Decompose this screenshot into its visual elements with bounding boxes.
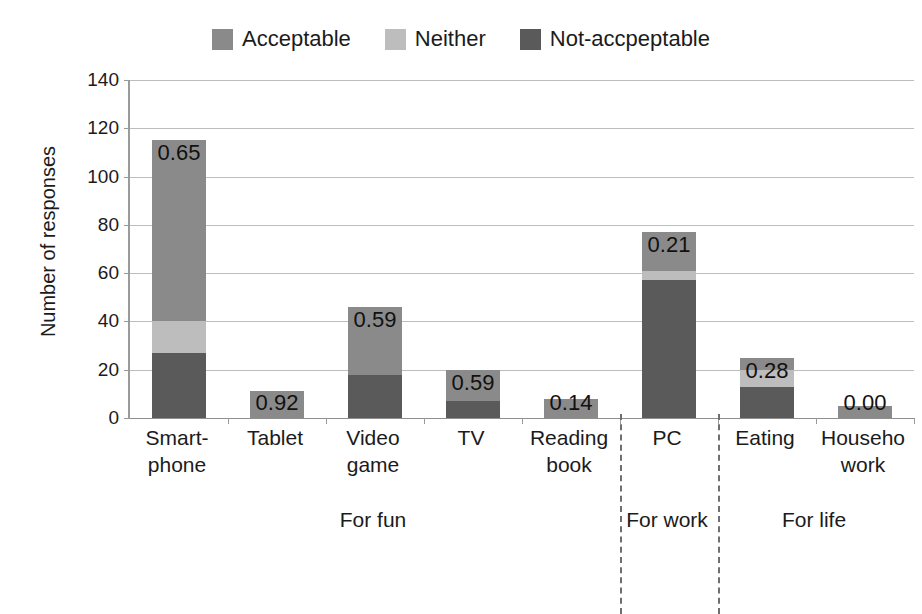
legend-item-acceptable: Acceptable: [212, 28, 351, 50]
y-tick-label: 80: [98, 214, 119, 236]
group-labels: For funFor workFor life: [128, 508, 912, 542]
bar-stack[interactable]: [152, 140, 206, 418]
y-tick-label: 40: [98, 310, 119, 332]
x-category-label: TV: [422, 424, 520, 451]
x-category-label: Videogame: [324, 424, 422, 478]
x-category-label-line: Video: [324, 424, 422, 451]
bar-value-label: 0.65: [158, 140, 201, 166]
y-tick-mark: [124, 418, 130, 419]
y-tick-label: 60: [98, 262, 119, 284]
bar-stack[interactable]: [642, 232, 696, 418]
x-category-label: Househowork: [814, 424, 912, 478]
x-category-label: Tablet: [226, 424, 324, 451]
bar-group[interactable]: 0.59: [424, 80, 522, 418]
bar-value-label: 0.14: [550, 390, 593, 416]
y-tick-label: 140: [87, 69, 119, 91]
bar-group[interactable]: 0.14: [522, 80, 620, 418]
y-axis-title: Number of responses: [37, 112, 60, 372]
bar-value-label: 0.21: [648, 232, 691, 258]
bar-group[interactable]: 0.00: [816, 80, 914, 418]
x-category-label: Readingbook: [520, 424, 618, 478]
bar-segment[interactable]: [152, 321, 206, 352]
legend-label-neither: Neither: [415, 28, 486, 50]
x-category-label-line: Eating: [716, 424, 814, 451]
x-category-label-line: game: [324, 451, 422, 478]
bar-segment[interactable]: [446, 401, 500, 418]
x-category-label-line: Tablet: [226, 424, 324, 451]
plot-area: 020406080100120140 0.650.920.590.590.140…: [128, 80, 912, 418]
legend-swatch-not-acceptable: [520, 29, 541, 50]
bar-group[interactable]: 0.21: [620, 80, 718, 418]
x-category-label-line: Househo: [814, 424, 912, 451]
x-tick-mark: [914, 418, 915, 424]
bar-segment[interactable]: [642, 271, 696, 281]
x-category-label-line: Reading: [520, 424, 618, 451]
bar-value-label: 0.59: [452, 370, 495, 396]
x-category-label: Eating: [716, 424, 814, 451]
y-tick-label: 100: [87, 166, 119, 188]
legend-swatch-neither: [385, 29, 406, 50]
bar-group[interactable]: 0.65: [130, 80, 228, 418]
group-label: For fun: [128, 508, 618, 532]
x-axis-category-labels: Smart-phoneTabletVideogameTVReadingbookP…: [128, 424, 912, 494]
bar-value-label: 0.92: [256, 390, 299, 416]
legend-swatch-acceptable: [212, 29, 233, 50]
bar-segment[interactable]: [152, 353, 206, 418]
legend-label-not-acceptable: Not-accpeptable: [550, 28, 710, 50]
group-label: For work: [618, 508, 716, 532]
bar-value-label: 0.00: [844, 390, 887, 416]
y-tick-label: 0: [108, 407, 119, 429]
bar-segment[interactable]: [740, 387, 794, 418]
bar-value-label: 0.59: [354, 307, 397, 333]
bar-group[interactable]: 0.28: [718, 80, 816, 418]
bar-segment[interactable]: [348, 375, 402, 418]
bar-group[interactable]: 0.92: [228, 80, 326, 418]
chart-legend: Acceptable Neither Not-accpeptable: [0, 28, 922, 50]
bar-segment[interactable]: [642, 280, 696, 418]
bars-layer: 0.650.920.590.590.140.210.280.00: [130, 80, 914, 418]
x-category-label-line: work: [814, 451, 912, 478]
x-category-label-line: PC: [618, 424, 716, 451]
x-category-label: Smart-phone: [128, 424, 226, 478]
legend-item-not-acceptable: Not-accpeptable: [520, 28, 710, 50]
bar-value-label: 0.28: [746, 358, 789, 384]
x-category-label-line: phone: [128, 451, 226, 478]
x-category-label-line: book: [520, 451, 618, 478]
x-category-label-line: Smart-: [128, 424, 226, 451]
bar-group[interactable]: 0.59: [326, 80, 424, 418]
legend-label-acceptable: Acceptable: [242, 28, 351, 50]
x-category-label: PC: [618, 424, 716, 451]
group-label: For life: [716, 508, 912, 532]
y-tick-label: 120: [87, 117, 119, 139]
bar-segment[interactable]: [152, 140, 206, 321]
y-tick-label: 20: [98, 359, 119, 381]
x-category-label-line: TV: [422, 424, 520, 451]
legend-item-neither: Neither: [385, 28, 486, 50]
